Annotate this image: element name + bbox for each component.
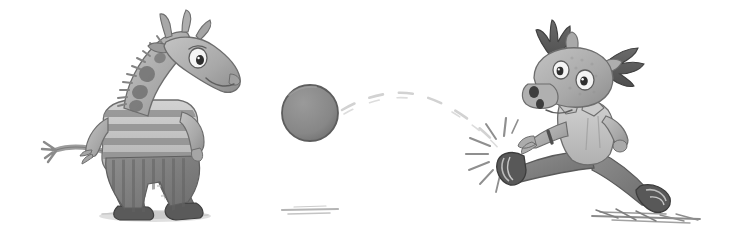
moose-front-arm — [518, 122, 568, 154]
character-giraffe — [42, 10, 240, 220]
scene-svg — [0, 0, 730, 250]
ball — [282, 85, 338, 141]
illustration-canvas: A striped-shirt giraffe on the left and … — [0, 0, 730, 250]
character-moose — [497, 20, 671, 212]
moose-speed-lines — [592, 209, 700, 223]
center-scuff — [282, 206, 338, 214]
